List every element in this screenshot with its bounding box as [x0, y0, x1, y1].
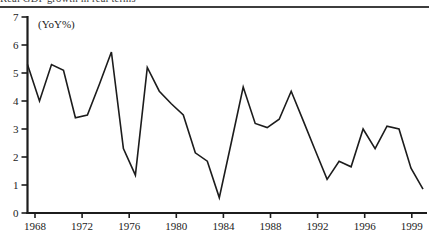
x-tick-label: 1992 — [307, 220, 329, 232]
x-tick-label: 1976 — [118, 220, 141, 232]
y-axis-unit-label: (YoY%) — [38, 18, 75, 31]
x-tick-label: 1972 — [71, 220, 93, 232]
y-tick-label: 5 — [13, 67, 19, 79]
y-tick-label: 3 — [13, 123, 19, 135]
y-tick-label: 1 — [13, 179, 19, 191]
y-tick-label: 6 — [13, 39, 19, 51]
x-tick-label: 1980 — [165, 220, 188, 232]
y-tick-label: 4 — [13, 95, 19, 107]
y-tick-label: 2 — [13, 151, 19, 163]
x-tick-label: 1999 — [401, 220, 424, 232]
figure: Real GDP growth in real terms 0123456719… — [0, 0, 429, 240]
y-tick-label: 0 — [13, 207, 19, 219]
x-tick-label: 1996 — [354, 220, 377, 232]
y-tick-label: 7 — [13, 11, 19, 23]
x-tick-label: 1988 — [260, 220, 283, 232]
x-tick-label: 1968 — [24, 220, 47, 232]
x-tick-label: 1984 — [212, 220, 235, 232]
yoy-line-chart: 0123456719681972197619801984198819921996… — [0, 0, 429, 240]
series-line — [28, 52, 424, 198]
